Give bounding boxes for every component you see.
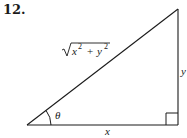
radicand-x: x [71,45,77,57]
angle-label-theta: θ [55,109,61,121]
hypotenuse-line [27,9,178,125]
exponent-x: 2 [78,42,82,51]
opposite-label-y: y [180,65,186,77]
radicand-y: y [96,45,102,57]
plus-sign: + [87,45,93,57]
right-triangle-diagram: θ x y x 2 + y 2 [0,0,187,138]
radical-sign-icon [62,43,110,56]
hypotenuse-label: x 2 + y 2 [62,42,110,57]
angle-arc [46,110,51,125]
adjacent-label-x: x [104,125,110,137]
right-angle-marker [166,113,178,125]
exponent-y: 2 [104,42,108,51]
